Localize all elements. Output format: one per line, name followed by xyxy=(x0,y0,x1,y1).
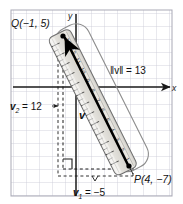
vector-name-label: v xyxy=(79,110,85,121)
y-axis-label: y xyxy=(68,12,72,21)
magnitude-label: ‖v‖ = 13 xyxy=(110,66,146,76)
vector-ruler-figure: 13 12 11 10 9 8 7 6 5 4 3 2 1 xyxy=(0,0,183,204)
component-v2-value: = 12 xyxy=(19,101,42,112)
point-p-marker xyxy=(126,163,131,168)
point-p-label: P(4, −7) xyxy=(134,174,172,185)
component-v2-label: v2 = 12 xyxy=(10,102,42,115)
x-axis-label: x xyxy=(172,84,176,93)
component-v1-value: = −5 xyxy=(82,187,105,198)
point-q-label: Q(−1, 5) xyxy=(11,18,50,29)
point-q-marker xyxy=(60,33,65,38)
component-v1-label: v1 = −5 xyxy=(73,188,105,201)
